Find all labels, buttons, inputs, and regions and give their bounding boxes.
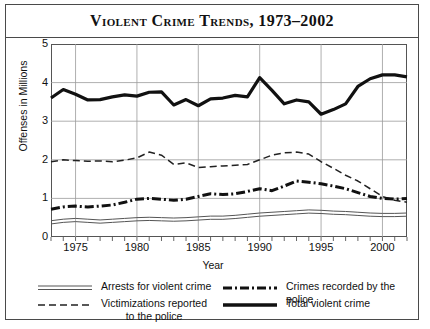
x-tick-label: 2000 <box>370 241 394 253</box>
x-tick-label: 1985 <box>186 241 210 253</box>
legend-key-solid-thick <box>221 298 279 312</box>
x-axis-ticks: 197519801985199019952000 <box>51 241 407 257</box>
legend-item: Arrests for violent crime <box>36 280 211 295</box>
series-line <box>51 213 407 224</box>
legend-label: Arrests for violent crime <box>101 280 211 293</box>
chart-title-bar: Violent Crime Trends, 1973–2002 <box>6 5 418 38</box>
series-line <box>51 75 407 114</box>
chart-canvas <box>6 38 420 319</box>
legend-item: Total violent crime <box>221 297 370 312</box>
x-tick-label: 1990 <box>247 241 271 253</box>
legend-key-double-thin <box>36 281 94 295</box>
chart-figure: Violent Crime Trends, 1973–2002 Offenses… <box>5 4 419 320</box>
legend-key-dashed <box>36 298 94 312</box>
x-axis-label: Year <box>6 259 420 271</box>
x-tick-label: 1980 <box>125 241 149 253</box>
legend-label: Victimizations reportedto the police <box>101 297 207 322</box>
plot-wrapper: Offenses in Millions 012345 197519801985… <box>6 38 420 319</box>
x-tick-label: 1975 <box>63 241 87 253</box>
series-line <box>51 181 407 209</box>
legend-item: Victimizations reportedto the police <box>36 297 207 322</box>
page-title: Violent Crime Trends, 1973–2002 <box>90 12 334 30</box>
legend-label: Total violent crime <box>286 297 370 310</box>
x-tick-label: 1995 <box>309 241 333 253</box>
chart-legend: Arrests for violent crimeVictimizations … <box>6 278 420 322</box>
legend-key-dash-dot-thick <box>221 281 279 295</box>
legend-label-line2: to the police <box>101 310 207 323</box>
